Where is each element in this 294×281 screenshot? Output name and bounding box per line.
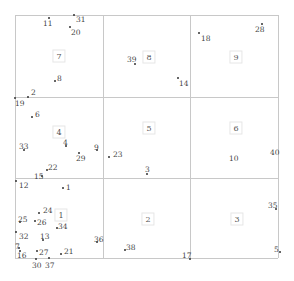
point-label: 12 xyxy=(19,182,29,190)
point-label: 36 xyxy=(94,236,104,244)
point-label: 20 xyxy=(71,29,81,37)
point-label: 39 xyxy=(127,56,137,64)
point-label: 4 xyxy=(63,139,68,147)
point-marker xyxy=(60,253,62,255)
point-label: 25 xyxy=(18,216,28,224)
grid-horizontal-line xyxy=(15,258,278,259)
grid-vertical-line xyxy=(278,15,279,258)
point-label: 15 xyxy=(34,173,44,181)
point-marker xyxy=(38,212,40,214)
point-label: 2 xyxy=(31,89,36,97)
cell-label: 7 xyxy=(52,50,65,63)
point-marker xyxy=(15,180,17,182)
point-marker xyxy=(36,250,38,252)
point-label: 13 xyxy=(40,233,50,241)
point-marker xyxy=(27,96,29,98)
point-label: 24 xyxy=(43,207,53,215)
point-label: 1 xyxy=(66,184,71,192)
point-label: 17 xyxy=(182,252,192,260)
point-marker xyxy=(73,14,75,16)
cell-label: 8 xyxy=(142,51,155,64)
point-label: 21 xyxy=(64,248,74,256)
point-label: 3 xyxy=(145,166,150,174)
point-marker xyxy=(48,257,50,259)
point-label: 29 xyxy=(76,155,86,163)
grid-vertical-line xyxy=(190,15,191,258)
point-label: 33 xyxy=(19,143,29,151)
cell-label: 5 xyxy=(142,122,155,135)
grid-horizontal-line xyxy=(15,97,278,98)
point-label: 30 xyxy=(32,262,42,270)
point-label: 19 xyxy=(15,100,25,108)
cell-label: 6 xyxy=(229,122,242,135)
point-label: 31 xyxy=(76,16,86,24)
point-marker xyxy=(15,231,17,233)
point-label: 34 xyxy=(58,223,68,231)
point-label: 6 xyxy=(35,111,40,119)
point-label: 38 xyxy=(126,244,136,252)
cell-label: 3 xyxy=(230,213,243,226)
point-label: 26 xyxy=(37,219,47,227)
point-marker xyxy=(35,258,37,260)
point-label: 5 xyxy=(274,246,279,254)
grid-horizontal-line xyxy=(15,15,278,16)
grid-vertical-line xyxy=(15,15,16,258)
point-label: 16 xyxy=(17,252,27,260)
point-label: 9 xyxy=(94,144,99,152)
grid-diagram: 7894561231131208219391418286334929233104… xyxy=(0,0,294,281)
point-marker xyxy=(108,156,110,158)
point-label: 10 xyxy=(229,155,239,163)
point-label: 27 xyxy=(39,249,49,257)
point-marker xyxy=(54,80,56,82)
cell-label: 1 xyxy=(54,209,67,222)
cell-label: 9 xyxy=(229,51,242,64)
point-label: 18 xyxy=(201,35,211,43)
point-marker xyxy=(34,220,36,222)
point-label: 35 xyxy=(268,202,278,210)
point-marker xyxy=(62,187,64,189)
point-label: 11 xyxy=(43,20,53,28)
grid-horizontal-line xyxy=(15,178,278,179)
point-label: 40 xyxy=(270,149,280,157)
point-label: 32 xyxy=(19,233,29,241)
point-marker xyxy=(198,32,200,34)
point-label: 37 xyxy=(45,262,55,270)
point-label: 22 xyxy=(48,164,58,172)
point-marker xyxy=(279,251,281,253)
point-label: 14 xyxy=(179,80,189,88)
cell-label: 4 xyxy=(52,126,65,139)
point-label: 23 xyxy=(113,151,123,159)
grid-vertical-line xyxy=(103,15,104,258)
point-label: 28 xyxy=(255,26,265,34)
point-marker xyxy=(31,116,33,118)
point-label: 8 xyxy=(57,75,62,83)
cell-label: 2 xyxy=(141,213,154,226)
